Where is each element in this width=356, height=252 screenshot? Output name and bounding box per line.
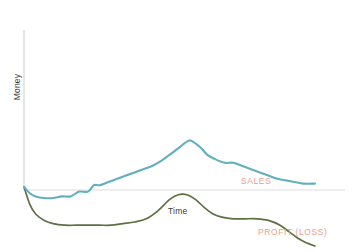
- profit-loss-series-label: PROFIT (LOSS): [258, 227, 328, 237]
- x-axis-label: Time: [168, 206, 187, 216]
- y-axis-label: Money: [12, 57, 22, 117]
- chart-container: Money Time SALES PROFIT (LOSS): [0, 0, 356, 252]
- sales-series-label: SALES: [241, 176, 271, 186]
